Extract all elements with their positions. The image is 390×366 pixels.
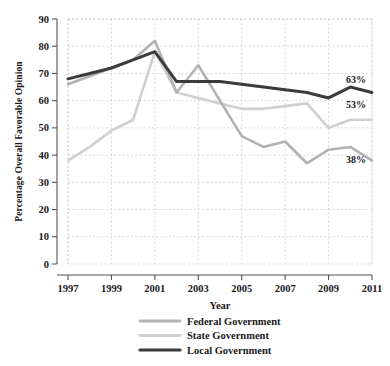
y-axis-tick-label: 0 <box>44 259 49 270</box>
x-axis-tick-label: 1997 <box>58 283 79 294</box>
y-axis-tick-label: 50 <box>39 122 50 133</box>
x-axis-tick-label: 2011 <box>362 283 382 294</box>
x-axis-tick-label: 2005 <box>231 283 252 294</box>
y-axis-tick-label: 30 <box>39 177 50 188</box>
y-axis-tick-label: 90 <box>39 14 50 25</box>
x-axis-title: Year <box>210 300 231 311</box>
x-axis-tick-label: 2009 <box>318 283 339 294</box>
y-axis-tick-label: 40 <box>39 150 50 161</box>
plot-area <box>68 19 372 264</box>
chart-container: 0102030405060708090199719992001200320052… <box>0 0 390 366</box>
legend-label-1: State Government <box>187 330 269 341</box>
legend-label-0: Federal Government <box>187 316 281 327</box>
y-axis-title: Percentage Overall Favorable Opinion <box>14 61 24 222</box>
y-axis-tick-label: 20 <box>39 204 50 215</box>
y-axis-tick-label: 10 <box>39 231 50 242</box>
y-axis-tick-label: 70 <box>39 68 50 79</box>
y-axis-tick-label: 60 <box>39 95 50 106</box>
x-axis-tick-label: 2001 <box>144 283 165 294</box>
line-chart: 0102030405060708090199719992001200320052… <box>0 0 390 366</box>
y-axis-tick-label: 80 <box>39 41 50 52</box>
annotation-63: 63% <box>346 74 366 85</box>
annotation-53: 53% <box>346 99 366 110</box>
x-axis-tick-label: 2007 <box>275 283 296 294</box>
legend-label-2: Local Government <box>187 345 272 356</box>
x-axis-tick-label: 2003 <box>188 283 209 294</box>
x-axis-tick-label: 1999 <box>101 283 122 294</box>
annotation-38: 38% <box>346 154 366 165</box>
